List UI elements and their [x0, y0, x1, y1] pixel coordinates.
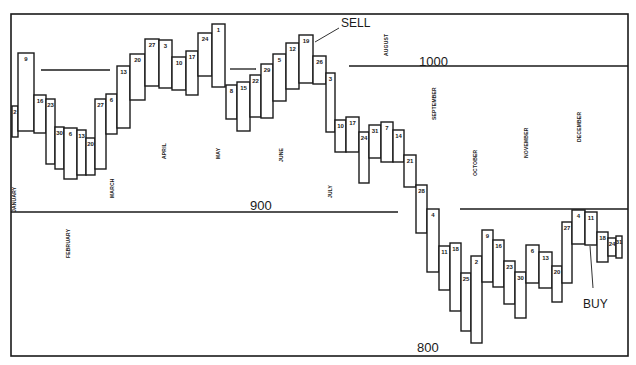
- week-date-label: 16: [37, 98, 44, 104]
- range-box-rect: [212, 24, 225, 87]
- week-date-label: 23: [47, 102, 54, 108]
- week-date-label: 25: [463, 276, 470, 282]
- week-date-label: 20: [554, 269, 561, 275]
- week-date-label: 31: [616, 239, 623, 245]
- week-date-label: 16: [495, 243, 502, 249]
- range-box-rect: [95, 99, 106, 169]
- weekly-range-box: 4: [427, 209, 439, 272]
- weekly-range-box: 1: [212, 24, 225, 87]
- week-date-label: 22: [252, 78, 259, 84]
- weekly-range-box: 9: [482, 230, 493, 282]
- weekly-range-box: 31: [369, 125, 381, 158]
- range-box-rect: [46, 99, 55, 164]
- week-date-label: 31: [372, 128, 379, 134]
- sell-annotation: SELL: [341, 16, 371, 30]
- week-date-label: 17: [189, 54, 196, 60]
- month-label-november: NOVEMBER: [523, 127, 529, 158]
- weekly-range-box: 28: [416, 185, 427, 233]
- month-label-september: SEPTEMBER: [431, 87, 437, 120]
- week-date-label: 11: [588, 215, 595, 221]
- weekly-range-chart: 1000 900 800 291623306132027613202731017…: [0, 0, 636, 365]
- week-date-label: 24: [361, 135, 368, 141]
- week-date-label: 10: [176, 60, 183, 66]
- weekly-boxes: 2916233061320276132027310172418152229512…: [12, 24, 623, 343]
- week-date-label: 15: [240, 85, 247, 91]
- week-date-label: 27: [564, 225, 571, 231]
- weekly-range-box: 13: [117, 66, 130, 128]
- weekly-range-box: 29: [261, 64, 273, 118]
- weekly-range-box: 13: [539, 252, 552, 288]
- weekly-range-box: 24: [198, 33, 212, 76]
- range-box-rect: [117, 66, 130, 128]
- weekly-range-box: 17: [186, 51, 198, 95]
- weekly-range-box: 21: [404, 155, 416, 187]
- week-date-label: 13: [120, 69, 127, 75]
- week-date-label: 20: [87, 141, 94, 147]
- weekly-range-box: 15: [237, 82, 250, 131]
- weekly-range-box: 6: [106, 94, 117, 134]
- week-date-label: 18: [452, 246, 459, 252]
- week-date-label: 24: [202, 36, 209, 42]
- week-date-label: 17: [349, 120, 356, 126]
- month-label-august: AUGUST: [383, 34, 389, 56]
- weekly-range-box: 20: [130, 54, 145, 100]
- level-label-900: 900: [250, 198, 272, 213]
- weekly-range-box: 23: [504, 261, 515, 304]
- weekly-range-box: 27: [562, 222, 572, 283]
- week-date-label: 28: [418, 188, 425, 194]
- weekly-range-box: 18: [597, 232, 608, 262]
- week-date-label: 27: [97, 102, 104, 108]
- range-box-rect: [18, 53, 34, 131]
- week-date-label: 27: [149, 42, 156, 48]
- week-date-label: 21: [407, 158, 414, 164]
- week-date-label: 30: [56, 130, 63, 136]
- weekly-range-box: 14: [393, 130, 404, 162]
- weekly-range-box: 3: [159, 40, 172, 88]
- weekly-range-box: 11: [439, 246, 450, 290]
- month-label-june: JUNE: [278, 147, 284, 162]
- week-date-label: 13: [542, 255, 549, 261]
- month-label-march: MARCH: [109, 178, 115, 198]
- weekly-range-box: 20: [86, 138, 95, 175]
- range-box-rect: [450, 243, 461, 311]
- buy-pointer-line: [590, 246, 593, 288]
- sell-pointer-line: [315, 28, 339, 42]
- week-date-label: 13: [78, 133, 85, 139]
- weekly-range-box: 10: [172, 57, 186, 90]
- weekly-range-box: 8: [226, 85, 237, 119]
- weekly-range-box: 12: [286, 43, 299, 89]
- level-label-800: 800: [417, 340, 439, 355]
- weekly-range-box: 27: [95, 99, 106, 169]
- week-date-label: 29: [264, 67, 271, 73]
- week-date-label: 30: [517, 275, 524, 281]
- weekly-range-box: 16: [493, 240, 504, 287]
- week-date-label: 18: [599, 235, 606, 241]
- month-label-february: FEBRUARY: [65, 228, 71, 258]
- weekly-range-box: 6: [526, 245, 539, 283]
- range-box-rect: [427, 209, 439, 272]
- buy-annotation: BUY: [583, 297, 608, 311]
- month-label-april: APRIL: [161, 143, 167, 159]
- weekly-range-box: 31: [616, 236, 623, 258]
- weekly-range-box: 22: [250, 75, 261, 117]
- month-label-january: JANUARY: [11, 186, 17, 212]
- weekly-range-box: 24: [359, 132, 369, 183]
- weekly-range-box: 2: [12, 106, 18, 137]
- week-date-label: 23: [506, 264, 513, 270]
- week-date-label: 26: [316, 59, 323, 65]
- weekly-range-box: 6: [64, 128, 77, 179]
- weekly-range-box: 3: [326, 73, 335, 132]
- weekly-range-box: 20: [552, 266, 562, 302]
- weekly-range-box: 13: [77, 130, 86, 175]
- weekly-range-box: 26: [313, 56, 326, 84]
- week-date-label: 10: [337, 123, 344, 129]
- weekly-range-box: 19: [299, 35, 313, 83]
- month-label-october: OCTOBER: [472, 150, 478, 176]
- chart-canvas: 1000 900 800 291623306132027613202731017…: [0, 0, 636, 365]
- month-label-may: MAY: [215, 147, 221, 159]
- weekly-range-box: 9: [18, 53, 34, 131]
- week-date-label: 19: [303, 38, 310, 44]
- weekly-range-box: 5: [273, 54, 286, 101]
- weekly-range-box: 30: [55, 127, 64, 169]
- week-date-label: 14: [395, 133, 402, 139]
